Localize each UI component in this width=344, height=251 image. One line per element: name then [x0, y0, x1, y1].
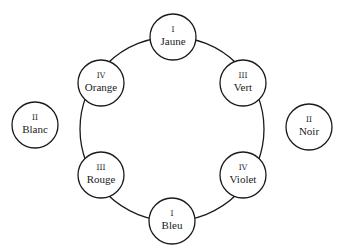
node-label: Rouge: [78, 173, 124, 186]
node-numeral: IV: [220, 163, 266, 172]
node-numeral: III: [220, 71, 266, 80]
node-numeral: III: [78, 163, 124, 172]
node-label: Blanc: [12, 123, 58, 136]
node-noir: II Noir: [286, 104, 332, 150]
node-label: Jaune: [150, 35, 196, 48]
node-numeral: II: [286, 115, 332, 124]
node-numeral: IV: [78, 71, 124, 80]
node-rouge: III Rouge: [78, 152, 124, 198]
node-label: Orange: [78, 81, 124, 94]
node-violet: IV Violet: [220, 152, 266, 198]
node-numeral: II: [12, 113, 58, 122]
node-numeral: I: [150, 25, 196, 34]
node-label: Violet: [220, 173, 266, 186]
node-blanc: II Blanc: [12, 102, 58, 148]
node-jaune: I Jaune: [150, 14, 196, 60]
node-orange: IV Orange: [78, 60, 124, 106]
node-label: Bleu: [149, 219, 195, 232]
node-numeral: I: [149, 209, 195, 218]
node-label: Noir: [286, 125, 332, 138]
node-vert: III Vert: [220, 60, 266, 106]
node-bleu: I Bleu: [149, 198, 195, 244]
node-label: Vert: [220, 81, 266, 94]
